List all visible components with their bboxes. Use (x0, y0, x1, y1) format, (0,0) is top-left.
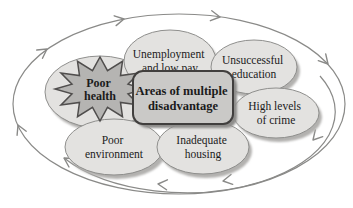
arrowhead-icon (222, 175, 233, 186)
multiple-disadvantage-cycle-diagram: Poor health Unemployment and low pay Uns… (0, 0, 353, 208)
node-crime-ellipse (233, 88, 319, 138)
center-box: Areas of multiple disadvantage (133, 71, 237, 128)
node-housing-ellipse (157, 120, 249, 174)
node-poor-health-label: Poor health (84, 76, 116, 103)
arrowhead-icon (158, 179, 168, 190)
center-box-label: Areas of multiple disadvantage (135, 84, 230, 113)
